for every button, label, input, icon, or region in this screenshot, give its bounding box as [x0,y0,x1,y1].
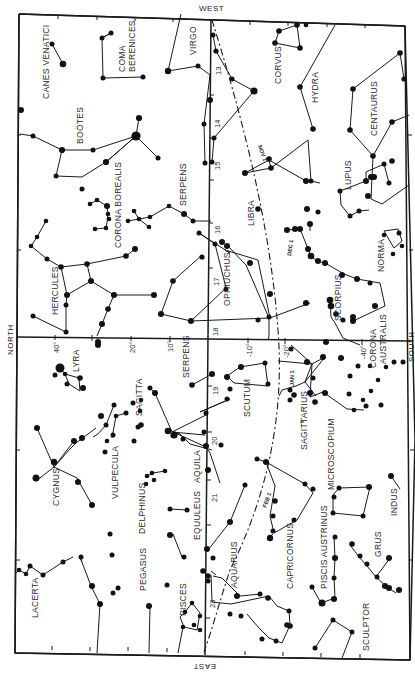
ra-17: 17 [212,278,221,286]
dec-20: 20° [128,342,137,353]
label-pegasus: PEGASUS [138,548,148,591]
label-bootes: BOÖTES [75,107,85,144]
label-pisces: PISCES [178,583,188,616]
label-sagitta: SAGITTA [134,378,144,416]
label-berenices: BERENICES [127,20,137,72]
label-canes-venatici: CANES VENATICI [41,25,51,99]
label-indus: INDUS [389,488,399,516]
label-corona-borealis: CORONA BOREALIS [113,162,123,248]
direction-north: NORTH [6,324,15,355]
ra-18-line [17,337,412,341]
direction-east: EAST [193,662,216,671]
label-scutum: SCUTUM [242,379,252,417]
label-hercules: HERCULES [50,266,60,315]
label-corona: CORONA [368,329,378,368]
ecliptic-date-jan1: JAN 1 [289,370,295,386]
star-chart: WEST EAST NORTH SOUTH 13 14 15 16 17 18 … [0,0,415,683]
label-aquila: AQUILA [192,450,202,483]
label-vulpecula: VULPECULA [110,446,120,499]
ra-21: 21 [210,494,219,502]
ecliptic-date-feb1: FEB 1 [261,492,272,509]
celestial-equator [205,20,211,655]
label-serpens-caput: SERPENS [178,163,188,206]
label-australis: AUSTRALIS [378,314,388,364]
ra-16: 16 [213,226,222,234]
dec-10: 10° [166,341,175,352]
dec-40: 40° [52,342,61,353]
label-delphinus: DELPHINUS [137,483,147,534]
label-sculptor: SCULPTOR [361,602,371,651]
label-capricornus: CAPRICORNUS [285,523,295,589]
ecliptic-date-nov1: NOV 1 [257,144,268,162]
ra-15: 15 [213,162,222,170]
ra-20: 20 [210,437,219,445]
ra-14: 14 [213,120,222,128]
direction-west: WEST [199,4,224,13]
label-libra: LIBRA [246,200,256,226]
ecliptic-date-dec1: DEC 1 [286,239,294,256]
label-grus: GRUS [373,531,383,557]
dec-minus-10: -10° [245,343,254,357]
label-corvus: CORVUS [273,46,283,84]
label-serpens-cauda: SERPENS [181,335,191,378]
label-equuleus: EQUULEUS [192,491,202,540]
label-lacerta: LACERTA [30,577,40,618]
label-ophiuchus: OPHIUCHUS [222,252,232,306]
label-aquarius: AQUARIUS [229,541,239,588]
label-scorpius: SCORPIUS [333,274,343,321]
label-piscis-austrinus: PISCIS AUSTRINUS [319,505,329,589]
label-centaurus: CENTAURUS [369,81,379,136]
ra-23: 23 [208,600,217,608]
label-norma: NORMA [376,239,386,272]
dec-minus-40: -40° [359,345,368,359]
dec-minus-20: -20° [282,344,291,358]
ra-13: 13 [214,67,223,75]
label-virgo: VIRGO [188,26,198,55]
label-sagittarius: SAGITTARIUS [299,391,309,450]
label-lupus: LUPUS [343,160,353,190]
label-microscopium: MICROSCOPIUM [326,418,336,490]
label-hydra: HYDRA [310,72,320,103]
direction-south: SOUTH [407,332,415,363]
label-lyra: LYRA [71,349,81,372]
ra-18: 18 [211,328,220,336]
label-coma: COMA [117,45,127,72]
ra-19: 19 [211,387,220,395]
label-cygnus: CYGNUS [51,468,61,506]
